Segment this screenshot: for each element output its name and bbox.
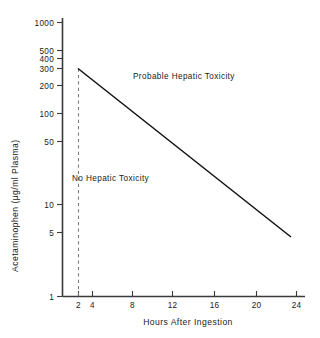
chart-svg: 1000 500 400 300 200 100 50 10 5 1 2 4 8 [0,0,320,338]
y-tick-label-400: 400 [39,55,54,64]
y-ticks-group [57,23,63,297]
y-axis-title: Acetaminophen (µg/ml Plasma) [10,139,20,272]
y-tick-labels-group: 1000 500 400 300 200 100 50 10 5 1 [35,19,55,302]
axis-titles-group: Acetaminophen (µg/ml Plasma) Hours After… [10,139,233,327]
acetaminophen-nomogram-figure: 1000 500 400 300 200 100 50 10 5 1 2 4 8 [0,0,320,338]
y-tick-label-1000: 1000 [35,19,55,28]
x-tick-label-24: 24 [292,301,302,310]
y-tick-label-10: 10 [44,201,54,210]
axes-group [63,18,306,297]
y-tick-label-300: 300 [39,65,54,74]
x-ticks-group [79,291,297,297]
series-treatment-line [78,69,291,238]
x-tick-label-2: 2 [76,301,81,310]
x-tick-label-4: 4 [90,301,95,310]
y-tick-label-200: 200 [39,82,54,91]
x-tick-labels-group: 2 4 8 12 16 20 24 [76,301,301,310]
y-tick-label-1: 1 [49,293,54,302]
x-axis-title: Hours After Ingestion [143,317,233,327]
x-tick-label-12: 12 [168,301,178,310]
annotation-no-hepatic-toxicity: No Hepatic Toxicity [72,174,150,183]
annotation-probable-hepatic-toxicity: Probable Hepatic Toxicity [133,72,235,81]
x-tick-label-8: 8 [130,301,135,310]
y-tick-label-50: 50 [44,138,54,147]
x-tick-label-16: 16 [210,301,220,310]
y-tick-label-5: 5 [49,229,54,238]
y-tick-label-100: 100 [39,110,54,119]
x-tick-label-20: 20 [252,301,262,310]
